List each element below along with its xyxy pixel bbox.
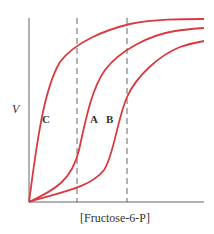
curve-c [29,19,204,202]
curve-a [29,28,204,202]
curve-b [29,41,204,202]
curve-c-label: C [42,113,50,125]
x-axis-label: [Fructose-6-P] [80,211,150,225]
chart: V C A B [Fructose-6-P] [0,0,214,234]
y-axis-label: V [12,102,21,116]
curve-b-label: B [106,113,114,125]
curve-a-label: A [90,113,98,125]
